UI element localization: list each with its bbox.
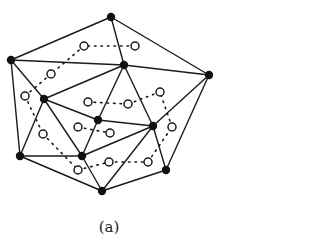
vertex-B-icon (7, 56, 15, 64)
hollow-node-icon (39, 130, 47, 138)
hollow-node-icon (74, 123, 82, 131)
hollow-node-icon (144, 158, 152, 166)
vertex-F-icon (94, 116, 102, 124)
dotted-link-p14-p11 (148, 127, 172, 162)
hollow-node-icon (168, 123, 176, 131)
vertex-E-icon (40, 95, 48, 103)
dotted-link-p1-p3 (51, 46, 84, 74)
figure-caption: (a) (96, 218, 122, 236)
hollow-node-icon (156, 88, 164, 96)
hollow-node-icon (105, 158, 113, 166)
vertex-G-icon (149, 122, 157, 130)
edge-A-B (11, 17, 111, 60)
edge-F-G (98, 120, 153, 126)
dotted-link-p6-p5 (88, 102, 128, 104)
dotted-link-p10-p12 (43, 134, 78, 170)
hollow-node-icon (21, 92, 29, 100)
dotted-link-p7-p6 (128, 92, 160, 104)
edge-C-F (98, 65, 124, 120)
dual-dotted-links (25, 46, 172, 170)
edge-C-D (124, 65, 209, 75)
edge-I-K (82, 156, 102, 191)
edge-H-K (20, 156, 102, 191)
hollow-node-icon (74, 166, 82, 174)
hollow-node-icon (106, 129, 114, 137)
hollow-node-icon (84, 98, 92, 106)
hollow-node-icon (124, 100, 132, 108)
edge-E-H (20, 99, 44, 156)
edge-E-C (44, 65, 124, 99)
hollow-node-icon (47, 70, 55, 78)
edge-D-G (153, 75, 209, 126)
vertex-H-icon (16, 152, 24, 160)
vertex-K-icon (98, 187, 106, 195)
filled-vertices (7, 13, 213, 195)
vertex-I-icon (78, 152, 86, 160)
vertex-D-icon (205, 71, 213, 79)
edge-C-G (124, 65, 153, 126)
dotted-link-p12-p13 (78, 162, 109, 170)
vertex-A-icon (107, 13, 115, 21)
hollow-node-icon (80, 42, 88, 50)
edge-B-C (11, 60, 124, 65)
triangulation-diagram (0, 0, 316, 243)
edge-G-J (153, 126, 166, 170)
edge-B-H (11, 60, 20, 156)
hollow-node-icon (131, 42, 139, 50)
vertex-C-icon (120, 61, 128, 69)
edge-K-J (102, 170, 166, 191)
dotted-link-p4-p10 (25, 96, 43, 134)
vertex-J-icon (162, 166, 170, 174)
